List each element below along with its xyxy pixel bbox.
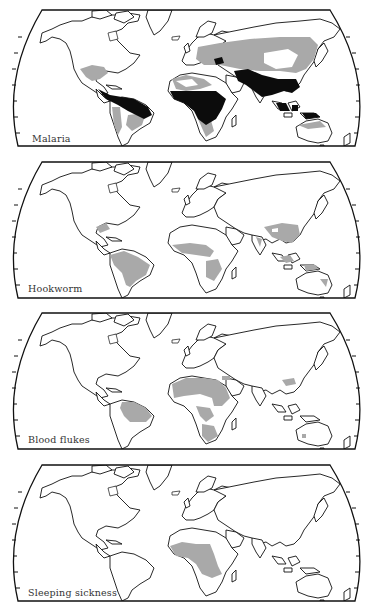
world-map-malaria xyxy=(0,7,372,152)
map-panel-blood-flukes: Blood flukes xyxy=(0,310,372,455)
map-title-sleeping-sickness: Sleeping sickness xyxy=(28,587,117,598)
map-title-hookworm: Hookworm xyxy=(28,283,82,294)
world-map-sleeping-sickness xyxy=(0,462,372,606)
map-panel-hookworm: Hookworm xyxy=(0,159,372,304)
map-panel-malaria: Malaria xyxy=(0,7,372,152)
map-title-malaria: Malaria xyxy=(32,133,71,144)
map-panel-sleeping-sickness: Sleeping sickness xyxy=(0,462,372,606)
map-title-blood-flukes: Blood flukes xyxy=(28,434,90,445)
